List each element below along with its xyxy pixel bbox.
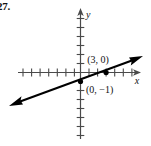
point-marker [104,70,109,75]
exercise-figure: 27. [0,0,151,146]
x-axis-label: x [134,75,140,86]
line-segment [16,59,136,103]
point-marker [78,79,83,84]
point-label-3-0: (3, 0) [87,54,109,66]
y-axis-label: y [85,9,91,20]
coordinate-graph: (3, 0) (0, −1) y x [0,0,151,146]
point-label-0-neg1: (0, −1) [86,84,113,96]
plotted-line [9,56,143,106]
